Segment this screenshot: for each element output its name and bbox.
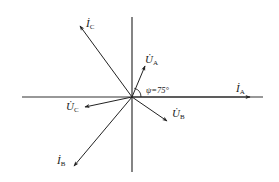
angle-label: ψ=75°	[146, 85, 170, 95]
label-UA: U̇A	[145, 53, 158, 67]
label-IA: İA	[235, 82, 245, 96]
label-UB: U̇B	[172, 107, 185, 121]
phasor-IC	[80, 26, 132, 97]
label-UC: U̇C	[66, 100, 79, 114]
label-IC: İC	[85, 17, 95, 31]
phasor-UA	[132, 66, 145, 97]
phasor-diagram: İA U̇A İC U̇C U̇B İB ψ=75°	[0, 0, 279, 182]
phasor-UB	[132, 97, 167, 121]
phasor-IB	[74, 97, 132, 166]
label-IB: İB	[56, 154, 66, 168]
